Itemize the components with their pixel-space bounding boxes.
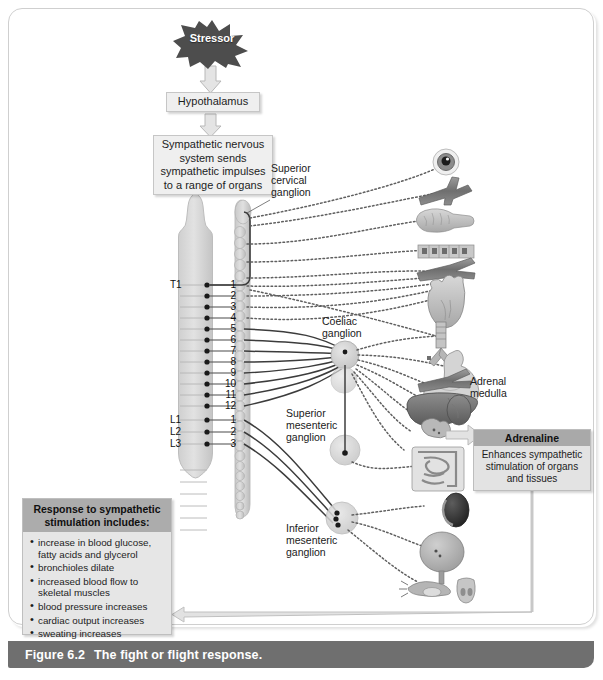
inferior-mesenteric-ganglion-label: Inferior mesenteric ganglion xyxy=(286,522,337,558)
adrenaline-title: Adrenaline xyxy=(474,430,590,446)
stressor-label: Stressor xyxy=(172,32,252,44)
fibre-coeliac-to-intestines xyxy=(352,374,404,450)
figure-page: Stressor Hypothalamus Sympathetic nervou… xyxy=(0,0,603,680)
fibre-coeliac-to-vessels xyxy=(358,360,432,386)
coeliac-ganglion-label: Coeliac ganglion xyxy=(322,315,362,339)
list-item: sweating increases xyxy=(30,628,167,640)
thoracic-number: 5 xyxy=(222,323,236,334)
sns-label: Sympathetic nervous system sends sympath… xyxy=(157,138,269,192)
thoracic-number: 11 xyxy=(218,389,236,400)
organ-blood-vessels-upper xyxy=(419,177,472,205)
label-line: Superior xyxy=(271,162,311,174)
thoracic-number: 12 xyxy=(218,400,236,411)
response-list: increase in blood glucose, fatty acids a… xyxy=(23,532,171,640)
organ-salivary-gland xyxy=(416,209,474,232)
list-item: cardiac output increases xyxy=(30,615,167,627)
organ-reproductive-organs xyxy=(399,578,475,603)
sympathetic-nervous-system-box: Sympathetic nervous system sends sympath… xyxy=(153,135,273,195)
response-box: Response to sympathetic stimulation incl… xyxy=(22,498,172,635)
superior-cervical-ganglion-label: Superior cervical ganglion xyxy=(271,162,311,198)
spinal-marker-L3: L3 xyxy=(170,438,188,449)
organ-eye xyxy=(433,149,459,175)
label-line: ganglion xyxy=(286,546,337,558)
spinal-marker-L1: L1 xyxy=(170,414,188,425)
label-line: mesenteric xyxy=(286,534,337,546)
preganglionic-fibres-coeliac xyxy=(244,329,349,406)
flow-arrow-stressor-to-hypothalamus xyxy=(200,66,221,93)
fibre-to-vessels-muscle xyxy=(247,271,443,278)
thoracic-number: 6 xyxy=(222,334,236,345)
adrenal-medulla-label: Adrenal medulla xyxy=(470,375,507,399)
label-line: Superior xyxy=(286,407,337,419)
organ-skin-sweat-gland xyxy=(418,245,474,258)
adrenaline-body: Enhances sympathetic stimulation of orga… xyxy=(474,446,590,485)
flow-arrow-hypothalamus-to-sns xyxy=(200,114,221,137)
figure-number: Figure 6.2 xyxy=(25,648,85,662)
organ-intestines xyxy=(412,447,464,491)
thoracic-number: 4 xyxy=(222,312,236,323)
stressor-star xyxy=(172,18,252,70)
organ-bladder xyxy=(420,532,464,584)
spinal-marker-T1: T1 xyxy=(170,279,188,290)
list-item: increase in blood glucose, fatty acids a… xyxy=(30,537,167,560)
hypothalamus-label: Hypothalamus xyxy=(178,95,248,109)
fibre-to-skin xyxy=(247,250,440,262)
thoracic-number: 7 xyxy=(222,345,236,356)
organ-kidney-lower xyxy=(443,493,469,527)
superior-mesenteric-ganglion-label: Superior mesenteric ganglion xyxy=(286,407,337,443)
fibre-coeliac-to-lungs xyxy=(357,336,437,350)
thoracic-number: 3 xyxy=(222,301,236,312)
adrenaline-box: Adrenaline Enhances sympathetic stimulat… xyxy=(473,429,591,491)
thoracic-number: 2 xyxy=(222,290,236,301)
lumbar-number: 1 xyxy=(222,414,236,425)
thoracic-number: 10 xyxy=(218,378,236,389)
organ-heart xyxy=(428,275,465,328)
coeliac-ganglion xyxy=(331,341,359,369)
label-line: ganglion xyxy=(271,186,311,198)
figure-caption-text: The fight or flight response. xyxy=(94,648,262,662)
label-line: mesenteric xyxy=(286,419,337,431)
label-line: cervical xyxy=(271,174,311,186)
label-line: Coeliac xyxy=(322,315,362,327)
figure-caption: Figure 6.2 The fight or flight response. xyxy=(8,641,594,668)
label-line: ganglion xyxy=(322,327,362,339)
fibre-coeliac-to-adrenal xyxy=(354,372,412,432)
fibre-img-to-reproductive xyxy=(348,530,418,582)
thoracic-number: 9 xyxy=(222,367,236,378)
label-line: medulla xyxy=(470,387,507,399)
spinal-marker-L2: L2 xyxy=(170,426,188,437)
list-item: blood pressure increases xyxy=(30,601,167,613)
sympathetic-chain xyxy=(235,200,252,519)
label-line: ganglion xyxy=(286,431,337,443)
fibre-coeliac-to-liver xyxy=(357,365,424,400)
lumbar-number: 3 xyxy=(222,438,236,449)
thoracic-number: 1 xyxy=(222,279,236,290)
thoracic-number: 8 xyxy=(222,356,236,367)
fibre-img-to-bladder xyxy=(352,522,422,546)
list-item: increased blood flow to skeletal muscles xyxy=(30,576,167,599)
fibre-to-heart-2 xyxy=(247,283,438,296)
fibre-to-heart xyxy=(247,277,440,286)
fibre-smg-to-intestines xyxy=(352,462,418,469)
label-line: Inferior xyxy=(286,522,337,534)
lumbar-number: 2 xyxy=(222,426,236,437)
response-title: Response to sympathetic stimulation incl… xyxy=(23,499,171,532)
fibre-to-salivary-gland xyxy=(247,218,445,244)
list-item: bronchioles dilate xyxy=(30,562,167,574)
label-line: Adrenal xyxy=(470,375,507,387)
organ-kidney-upper xyxy=(447,395,471,425)
fibre-img-to-kidney xyxy=(352,506,424,515)
hypothalamus-box: Hypothalamus xyxy=(166,92,260,112)
